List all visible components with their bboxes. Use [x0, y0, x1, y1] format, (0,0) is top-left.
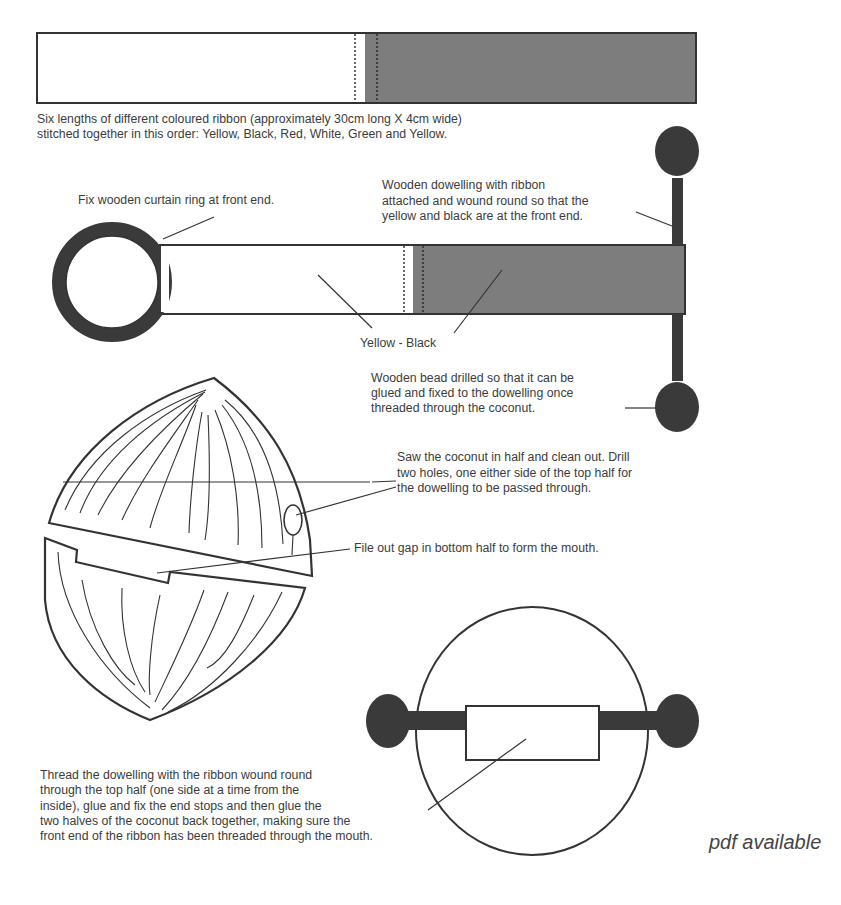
ribbon-description: Six lengths of different coloured ribbon… — [37, 112, 462, 141]
thread-instructions-line: front end of the ribbon has been threade… — [40, 829, 373, 844]
saw-label-line: the dowelling to be passed through. — [397, 481, 632, 497]
dowelling-label: Wooden dowelling with ribbon attached an… — [382, 178, 588, 225]
yellow-black-label: Yellow - Black — [360, 336, 436, 351]
dowelling-label-line: Wooden dowelling with ribbon — [382, 178, 588, 194]
assembled-coconut — [366, 607, 699, 855]
bead-label-line: glued and fixed to the dowelling once — [371, 386, 574, 401]
coconut-bottom-half — [45, 538, 350, 720]
thread-instructions: Thread the dowelling with the ribbon wou… — [40, 768, 373, 844]
dowelling-label-line: yellow and black are at the front end. — [382, 209, 588, 225]
bead-label: Wooden bead drilled so that it can be gl… — [371, 371, 574, 416]
thread-instructions-line: inside), glue and fix the end stops and … — [40, 799, 373, 814]
ribbon-strip — [37, 33, 696, 103]
saw-label: Saw the coconut in half and clean out. D… — [397, 450, 632, 497]
dowelling-label-line: attached and wound round so that the — [382, 194, 588, 210]
curtain-ring-label-line: Fix wooden curtain ring at front end. — [78, 193, 274, 208]
file-gap-label-line: File out gap in bottom half to form the … — [354, 541, 599, 556]
curtain-ring-label: Fix wooden curtain ring at front end. — [78, 193, 274, 208]
saw-label-line: two holes, one either side of the top ha… — [397, 466, 632, 482]
bead-label-line: threaded through the coconut. — [371, 401, 574, 416]
thread-instructions-line: Thread the dowelling with the ribbon wou… — [40, 768, 373, 783]
thread-instructions-line: two halves of the coconut back together,… — [40, 814, 373, 829]
pdf-available-note: pdf available — [709, 831, 821, 854]
coconut-top-half — [49, 378, 396, 576]
ribbon-description-line: stitched together in this order: Yellow,… — [37, 127, 462, 142]
file-gap-label: File out gap in bottom half to form the … — [354, 541, 599, 556]
ribbon-description-line: Six lengths of different coloured ribbon… — [37, 112, 462, 127]
bead-label-line: Wooden bead drilled so that it can be — [371, 371, 574, 386]
curtain-ring — [59, 229, 169, 335]
saw-label-line: Saw the coconut in half and clean out. D… — [397, 450, 632, 466]
thread-instructions-line: through the top half (one side at a time… — [40, 783, 373, 798]
yellow-black-label-line: Yellow - Black — [360, 336, 436, 351]
